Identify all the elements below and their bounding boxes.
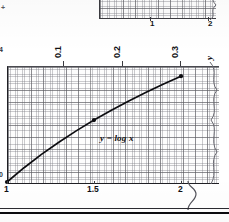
page-fold-brace-right [206,60,228,186]
top-axis-label-0.2: 0.2 [112,46,122,58]
page-corner-mark: + [1,4,5,11]
figure-canvas: + 1 2 0.1 0.2 0.3 y 4 0 y = log x 1 1.5 … [0,0,229,222]
top-axis-label-0.1: 0.1 [53,46,63,58]
page-rule-thick [0,212,229,214]
equation-annotation: y = log x [100,133,134,143]
bottom-axis-label-2: 2 [178,184,183,194]
top-chart-label-1: 1 [150,19,154,28]
bottom-axis-label-1: 1 [4,184,9,194]
top-chart-axis-labels: 1 2 [99,19,219,33]
top-chart-label-2: 2 [208,19,212,28]
bottom-axis-label-1.5: 1.5 [87,184,99,194]
page-fold-brace-topright [206,0,226,20]
main-chart-plot-area [7,66,219,184]
main-chart-top-axis: 0.1 0.2 0.3 y [0,36,229,66]
left-clipped-label-top: 4 [0,46,3,53]
partial-chart-above [99,0,216,19]
top-axis-label-0.3: 0.3 [170,46,180,58]
page-rule-thin [0,208,229,209]
left-clipped-label-bottom: 0 [0,171,3,178]
